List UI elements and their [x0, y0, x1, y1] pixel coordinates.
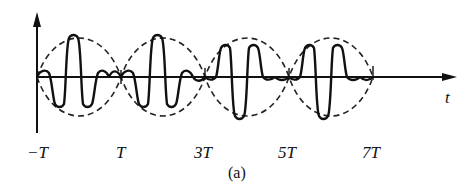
tick-label-t: T — [116, 144, 125, 161]
waveform-plot — [0, 0, 472, 189]
tick-label-3t: 3T — [194, 144, 212, 161]
figure-caption: (a) — [228, 165, 246, 181]
tick-label-5t: 5T — [278, 144, 296, 161]
x-axis-arrow-icon — [442, 73, 457, 81]
tick-label-7t: 7T — [362, 144, 380, 161]
y-axis-arrow-icon — [33, 12, 41, 27]
tick-label-minus-t: −T — [27, 144, 48, 161]
waveform-figure: t −T T 3T 5T 7T (a) — [0, 0, 472, 189]
x-axis-label: t — [445, 89, 450, 106]
